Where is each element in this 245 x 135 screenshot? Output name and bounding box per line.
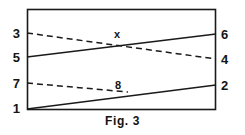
terminal-label-left-1: 1	[6, 102, 20, 115]
diagram-frame	[28, 10, 216, 110]
figure-caption: Fig. 3	[0, 115, 245, 127]
intersection-label-x: x	[109, 29, 125, 40]
node-label-8: 8	[110, 80, 126, 91]
terminal-label-left-7: 7	[6, 77, 20, 90]
terminal-label-left-5: 5	[6, 51, 20, 64]
figure-container: 3 5 7 1 6 4 2 x 8 Fig. 3	[0, 0, 245, 135]
terminal-label-right-2: 2	[221, 79, 235, 92]
terminal-label-left-3: 3	[6, 27, 20, 40]
terminal-label-right-4: 4	[221, 53, 235, 66]
terminal-label-right-6: 6	[221, 28, 235, 41]
